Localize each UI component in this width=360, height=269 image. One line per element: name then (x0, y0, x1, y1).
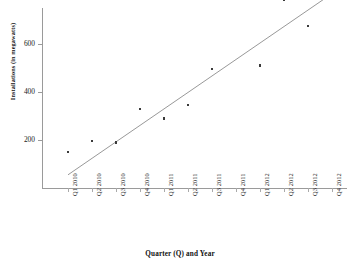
x-tick-mark (68, 188, 69, 192)
x-tick-label: Q4 2010 (143, 173, 150, 196)
x-tick-label: Q3 2012 (311, 173, 318, 196)
y-tick-label: 400 (7, 88, 35, 96)
x-tick-mark (188, 188, 189, 192)
x-tick-mark (212, 188, 213, 192)
x-tick-label: Q1 2012 (263, 173, 270, 196)
x-tick-label: Q2 2011 (191, 173, 198, 196)
x-tick-label: Q4 2012 (335, 173, 342, 196)
x-tick-label: Q2 2012 (287, 173, 294, 196)
data-point (115, 141, 118, 144)
data-point (67, 151, 70, 154)
data-point (259, 64, 262, 67)
trendline (0, 0, 360, 269)
y-tick-label: 200 (7, 136, 35, 144)
y-tick-mark (38, 140, 42, 141)
x-tick-mark (332, 188, 333, 192)
x-tick-label: Q2 2010 (95, 173, 102, 196)
y-axis-title: Installations (in megawatts) (9, 0, 16, 137)
x-tick-label: Q4 2011 (239, 173, 246, 196)
x-tick-mark (260, 188, 261, 192)
x-tick-label: Q3 2010 (119, 173, 126, 196)
x-tick-mark (236, 188, 237, 192)
y-tick-label: 600 (7, 40, 35, 48)
y-tick-mark (38, 44, 42, 45)
data-point (187, 104, 190, 107)
x-tick-mark (284, 188, 285, 192)
x-tick-label: Q1 2011 (167, 173, 174, 196)
y-axis-line (42, 8, 43, 189)
x-tick-mark (140, 188, 141, 192)
data-point (163, 117, 166, 120)
x-tick-label: Q3 2011 (215, 173, 222, 196)
x-tick-mark (164, 188, 165, 192)
x-tick-mark (92, 188, 93, 192)
x-tick-mark (308, 188, 309, 192)
data-point (211, 68, 214, 71)
scatter-chart: Installations (in megawatts) 80060040020… (0, 0, 360, 269)
x-tick-label: Q1 2010 (71, 173, 78, 196)
data-point (283, 0, 286, 1)
data-point (307, 25, 310, 28)
x-axis-title: Quarter (Q) and Year (0, 250, 360, 258)
data-point (91, 140, 94, 143)
data-point (139, 108, 142, 111)
x-tick-mark (116, 188, 117, 192)
y-tick-mark (38, 92, 42, 93)
